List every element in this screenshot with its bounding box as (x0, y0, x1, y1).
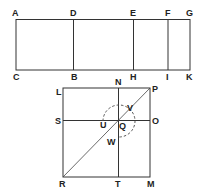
label-K: K (186, 72, 193, 82)
label-E: E (130, 8, 136, 18)
diagonal-RP (63, 88, 150, 177)
label-G: G (186, 8, 193, 18)
label-H: H (130, 72, 137, 82)
label-V: V (127, 103, 133, 113)
label-A: A (12, 8, 19, 18)
label-S: S (55, 116, 61, 126)
label-F: F (165, 8, 171, 18)
label-N: N (115, 77, 122, 87)
label-B: B (71, 72, 78, 82)
label-Q: Q (119, 121, 126, 131)
label-P: P (152, 84, 158, 94)
geometry-diagram: A D E F G C B H I K L N P S U Q V O W R … (0, 0, 202, 193)
label-U: U (100, 120, 107, 130)
label-L: L (56, 87, 62, 97)
label-D: D (70, 8, 77, 18)
label-M: M (147, 179, 155, 189)
top-rectangle-figure: A D E F G C B H I K (12, 8, 193, 82)
label-W: W (107, 137, 116, 147)
label-C: C (13, 72, 20, 82)
label-R: R (59, 179, 66, 189)
label-O: O (152, 116, 159, 126)
rectangle-ACKG (16, 20, 190, 71)
bottom-square-figure: L N P S U Q V O W R T M (55, 77, 159, 189)
label-T: T (115, 179, 121, 189)
label-I: I (166, 72, 169, 82)
